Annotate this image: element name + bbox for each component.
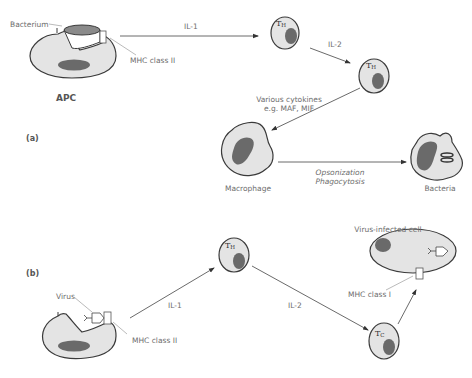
- bacterium-label: Bacterium: [10, 20, 49, 29]
- panel-b: (b) Virus MHC class II IL-1 TH IL-2: [26, 225, 456, 359]
- mhc-class-ii-receptor: [100, 31, 106, 43]
- apc-cell-b: [43, 312, 116, 358]
- th-cell-1: TH: [271, 17, 299, 49]
- apc-nucleus: [58, 60, 90, 71]
- opsonization-label: Opsonization: [316, 168, 365, 177]
- macrophage-with-bacteria: [411, 133, 463, 180]
- virus-infected-cell-label: Virus-infected cell: [354, 225, 421, 234]
- th-cell-b: TH: [219, 238, 249, 272]
- mhc-class-ii-label-b: MHC class II: [132, 336, 177, 345]
- macrophage-cell: [222, 123, 274, 176]
- il1-label-b: IL-1: [168, 301, 182, 310]
- tc-attack-arrow: [398, 290, 416, 324]
- mhc-class-ii-receptor-b: [104, 312, 111, 324]
- virus-icon: [92, 313, 104, 323]
- il1-label-a: IL-1: [184, 22, 198, 31]
- mhc-class-ii-label-a: MHC class II: [130, 56, 175, 65]
- mhc-class-i-label: MHC class I: [348, 290, 391, 299]
- il2-label-b: IL-2: [288, 301, 302, 310]
- il1-arrow-b: [130, 268, 214, 318]
- il2-label-a: IL-2: [328, 40, 342, 49]
- macrophage-label: Macrophage: [225, 184, 272, 193]
- panel-b-label: (b): [26, 269, 39, 278]
- th-cell-2: TH: [359, 59, 389, 93]
- cytokines-label-line2: e.g. MAF, MIF: [264, 104, 314, 113]
- cytokines-label-line1: Various cytokines: [256, 95, 322, 104]
- bacterium-icon: [64, 25, 100, 35]
- immune-response-diagram: (a) APC Bacterium MHC class II IL-1 TH I…: [0, 0, 472, 378]
- bacteria-label: Bacteria: [424, 184, 455, 193]
- panel-a-label: (a): [26, 134, 39, 143]
- mhc-class-i-receptor: [416, 268, 423, 279]
- virus-infected-cell: [370, 229, 456, 279]
- il2-arrow-a: [310, 48, 350, 63]
- tc-cell: TC: [369, 323, 399, 359]
- panel-a: (a) APC Bacterium MHC class II IL-1 TH I…: [10, 17, 462, 193]
- phagocytosis-label: Phagocytosis: [315, 177, 364, 186]
- virus-label: Virus: [56, 292, 75, 301]
- apc-cell-a: [30, 25, 116, 78]
- apc-label: APC: [56, 93, 77, 103]
